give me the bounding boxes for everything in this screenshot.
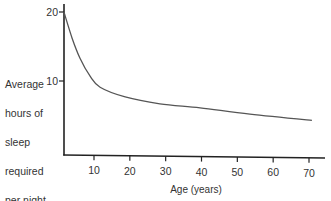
x-ticks: 10203040506070 (88, 155, 315, 178)
y-tick-label: 10 (46, 75, 58, 87)
series (64, 12, 312, 120)
x-tick-label: 60 (267, 166, 279, 178)
y-ticks: 1020 (46, 6, 64, 87)
x-tick-label: 20 (124, 165, 136, 177)
x-axis-title: Age (years) (170, 184, 222, 195)
x-tick-label: 10 (88, 164, 100, 176)
sleep-chart: 10203040506070 1020 Age (years) (0, 0, 331, 201)
x-axis-line (63, 155, 325, 158)
x-tick-label: 40 (196, 166, 208, 178)
axes (63, 4, 325, 158)
x-tick-label: 30 (160, 165, 172, 177)
sleep-curve-line (64, 12, 312, 120)
y-tick-label: 20 (46, 6, 58, 18)
x-tick-label: 70 (303, 167, 315, 179)
x-tick-label: 50 (231, 166, 243, 178)
